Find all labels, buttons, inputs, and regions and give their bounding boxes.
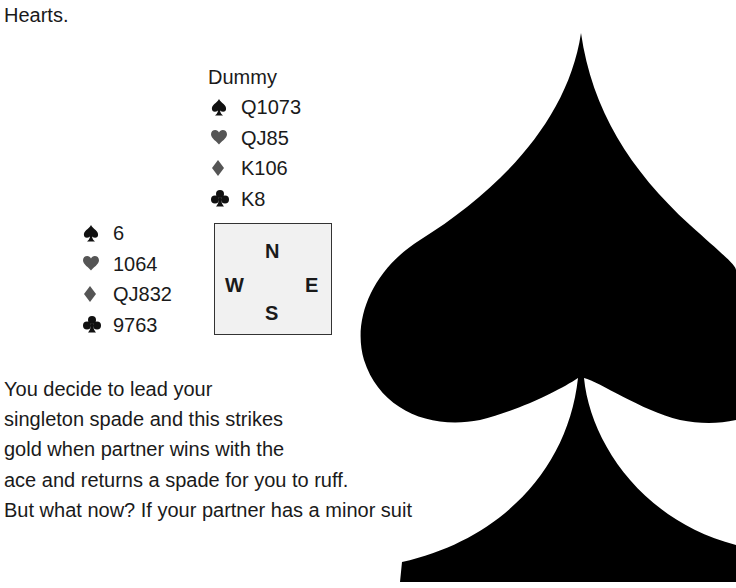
west-hand: 6 1064 QJ832 9763 (83, 218, 172, 340)
spade-icon (211, 99, 241, 116)
spade-icon (83, 225, 113, 242)
heart-icon (83, 256, 113, 271)
west-hearts-row: 1064 (83, 249, 172, 280)
dummy-clubs-cards: K8 (241, 184, 265, 215)
body-paragraph: You decide to lead your singleton spade … (4, 374, 412, 525)
west-spades-cards: 6 (113, 218, 124, 249)
body-line: But what now? If your partner has a mino… (4, 495, 412, 525)
compass-east: E (305, 274, 318, 297)
dummy-spades-row: Q1073 (211, 92, 301, 123)
west-clubs-cards: 9763 (113, 310, 158, 341)
body-line: gold when partner wins with the (4, 434, 412, 464)
diamond-icon (83, 286, 113, 302)
diamond-icon (211, 160, 241, 176)
compass-west: W (225, 274, 244, 297)
dummy-hand: Dummy Q1073 QJ85 K106 K8 (208, 62, 301, 214)
body-line: You decide to lead your (4, 374, 412, 404)
intro-text: Hearts. (4, 2, 68, 28)
dummy-diamonds-cards: K106 (241, 153, 288, 184)
heart-icon (211, 130, 241, 145)
west-diamonds-cards: QJ832 (113, 279, 172, 310)
compass-box: N W E S (214, 223, 332, 335)
dummy-spades-cards: Q1073 (241, 92, 301, 123)
dummy-hearts-row: QJ85 (211, 123, 301, 154)
compass-south: S (265, 302, 278, 325)
west-diamonds-row: QJ832 (83, 279, 172, 310)
west-hearts-cards: 1064 (113, 249, 158, 280)
body-line: singleton spade and this strikes (4, 404, 412, 434)
dummy-clubs-row: K8 (211, 184, 301, 215)
west-spades-row: 6 (83, 218, 172, 249)
dummy-title: Dummy (208, 62, 301, 92)
west-clubs-row: 9763 (83, 310, 172, 341)
club-icon (83, 316, 113, 333)
club-icon (211, 190, 241, 207)
compass-north: N (265, 240, 279, 263)
body-line: ace and returns a spade for you to ruff. (4, 465, 412, 495)
dummy-hearts-cards: QJ85 (241, 123, 289, 154)
dummy-diamonds-row: K106 (211, 153, 301, 184)
